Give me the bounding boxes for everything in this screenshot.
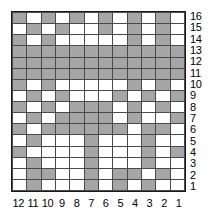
pattern-cell[interactable] xyxy=(156,179,170,190)
pattern-cell[interactable] xyxy=(27,168,41,179)
pattern-cell[interactable] xyxy=(41,102,55,113)
pattern-cell[interactable] xyxy=(170,113,184,124)
pattern-cell[interactable] xyxy=(170,57,184,68)
pattern-cell[interactable] xyxy=(84,79,98,90)
pattern-cell[interactable] xyxy=(41,79,55,90)
pattern-cell[interactable] xyxy=(156,79,170,90)
pattern-cell[interactable] xyxy=(141,68,155,79)
pattern-cell[interactable] xyxy=(55,13,69,24)
pattern-cell[interactable] xyxy=(170,102,184,113)
pattern-cell[interactable] xyxy=(113,157,127,168)
pattern-cell[interactable] xyxy=(156,24,170,35)
pattern-cell[interactable] xyxy=(98,168,112,179)
pattern-cell[interactable] xyxy=(156,113,170,124)
pattern-cell[interactable] xyxy=(27,113,41,124)
pattern-cell[interactable] xyxy=(70,135,84,146)
pattern-cell[interactable] xyxy=(156,157,170,168)
pattern-cell[interactable] xyxy=(98,157,112,168)
pattern-cell[interactable] xyxy=(170,24,184,35)
pattern-cell[interactable] xyxy=(141,135,155,146)
pattern-cell[interactable] xyxy=(13,68,27,79)
pattern-cell[interactable] xyxy=(41,113,55,124)
pattern-cell[interactable] xyxy=(84,146,98,157)
pattern-cell[interactable] xyxy=(156,35,170,46)
pattern-cell[interactable] xyxy=(127,79,141,90)
pattern-cell[interactable] xyxy=(98,68,112,79)
pattern-cell[interactable] xyxy=(13,24,27,35)
pattern-cell[interactable] xyxy=(98,35,112,46)
pattern-cell[interactable] xyxy=(70,157,84,168)
pattern-cell[interactable] xyxy=(84,46,98,57)
pattern-cell[interactable] xyxy=(41,157,55,168)
pattern-cell[interactable] xyxy=(70,102,84,113)
pattern-cell[interactable] xyxy=(127,179,141,190)
pattern-cell[interactable] xyxy=(98,90,112,101)
pattern-cell[interactable] xyxy=(113,68,127,79)
pattern-cell[interactable] xyxy=(84,24,98,35)
pattern-cell[interactable] xyxy=(84,68,98,79)
pattern-cell[interactable] xyxy=(141,146,155,157)
pattern-cell[interactable] xyxy=(127,168,141,179)
pattern-cell[interactable] xyxy=(156,102,170,113)
pattern-cell[interactable] xyxy=(98,146,112,157)
pattern-cell[interactable] xyxy=(156,68,170,79)
pattern-cell[interactable] xyxy=(141,124,155,135)
pattern-cell[interactable] xyxy=(70,13,84,24)
pattern-cell[interactable] xyxy=(70,146,84,157)
pattern-cell[interactable] xyxy=(170,79,184,90)
pattern-cell[interactable] xyxy=(113,79,127,90)
pattern-cell[interactable] xyxy=(98,102,112,113)
pattern-cell[interactable] xyxy=(170,168,184,179)
pattern-cell[interactable] xyxy=(55,146,69,157)
pattern-cell[interactable] xyxy=(98,79,112,90)
pattern-cell[interactable] xyxy=(55,79,69,90)
pattern-cell[interactable] xyxy=(141,113,155,124)
pattern-cell[interactable] xyxy=(113,179,127,190)
pattern-cell[interactable] xyxy=(113,113,127,124)
pattern-cell[interactable] xyxy=(27,57,41,68)
pattern-cell[interactable] xyxy=(170,157,184,168)
pattern-cell[interactable] xyxy=(13,13,27,24)
pattern-cell[interactable] xyxy=(113,135,127,146)
pattern-cell[interactable] xyxy=(127,13,141,24)
pattern-cell[interactable] xyxy=(156,168,170,179)
pattern-cell[interactable] xyxy=(55,35,69,46)
pattern-cell[interactable] xyxy=(170,124,184,135)
pattern-cell[interactable] xyxy=(84,168,98,179)
pattern-cell[interactable] xyxy=(127,135,141,146)
pattern-cell[interactable] xyxy=(156,146,170,157)
pattern-cell[interactable] xyxy=(127,24,141,35)
pattern-cell[interactable] xyxy=(113,35,127,46)
pattern-cell[interactable] xyxy=(127,157,141,168)
pattern-cell[interactable] xyxy=(13,157,27,168)
pattern-cell[interactable] xyxy=(84,113,98,124)
pattern-cell[interactable] xyxy=(170,135,184,146)
pattern-cell[interactable] xyxy=(13,113,27,124)
pattern-cell[interactable] xyxy=(13,168,27,179)
pattern-cell[interactable] xyxy=(41,68,55,79)
pattern-cell[interactable] xyxy=(70,124,84,135)
pattern-cell[interactable] xyxy=(98,13,112,24)
pattern-cell[interactable] xyxy=(156,13,170,24)
pattern-cell[interactable] xyxy=(13,179,27,190)
pattern-cell[interactable] xyxy=(113,13,127,24)
pattern-cell[interactable] xyxy=(70,113,84,124)
pattern-cell[interactable] xyxy=(27,157,41,168)
pattern-cell[interactable] xyxy=(127,35,141,46)
pattern-cell[interactable] xyxy=(70,168,84,179)
pattern-cell[interactable] xyxy=(70,24,84,35)
pattern-cell[interactable] xyxy=(84,13,98,24)
pattern-cell[interactable] xyxy=(13,135,27,146)
pattern-cell[interactable] xyxy=(27,13,41,24)
pattern-cell[interactable] xyxy=(98,57,112,68)
pattern-cell[interactable] xyxy=(141,35,155,46)
pattern-cell[interactable] xyxy=(127,146,141,157)
pattern-cell[interactable] xyxy=(113,168,127,179)
pattern-cell[interactable] xyxy=(41,13,55,24)
pattern-cell[interactable] xyxy=(41,35,55,46)
pattern-cell[interactable] xyxy=(84,90,98,101)
pattern-cell[interactable] xyxy=(41,135,55,146)
pattern-cell[interactable] xyxy=(55,168,69,179)
pattern-cell[interactable] xyxy=(70,57,84,68)
pattern-cell[interactable] xyxy=(55,102,69,113)
